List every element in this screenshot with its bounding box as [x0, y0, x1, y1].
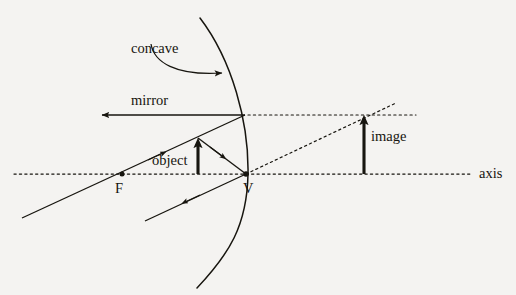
- focal-point-label: F: [115, 180, 123, 197]
- ray-object-tip-to-vertex-arrow: [210, 147, 224, 158]
- optics-ray-diagram: concave mirror object image axis F V: [0, 0, 516, 295]
- object-label: object: [152, 152, 187, 169]
- reflected-ray-down-left-arrow: [184, 195, 200, 203]
- vertex-label: V: [243, 180, 253, 197]
- concave-mirror-arc: [197, 18, 248, 288]
- axis-label: axis: [479, 165, 502, 182]
- concave-mirror-label: concave mirror: [131, 6, 179, 143]
- concave-mirror-label-line1: concave: [131, 40, 179, 57]
- image-label: image: [371, 128, 406, 145]
- diagram-canvas: [0, 0, 516, 295]
- concave-mirror-label-line2: mirror: [131, 92, 179, 109]
- focal-point-dot: [120, 172, 125, 177]
- vertex-point-dot: [243, 171, 249, 177]
